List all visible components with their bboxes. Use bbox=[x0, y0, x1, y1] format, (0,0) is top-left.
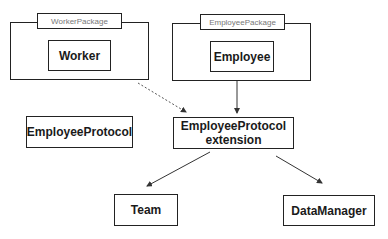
edges-layer bbox=[0, 0, 388, 239]
arrow-extension-to-datamanager bbox=[276, 156, 322, 183]
dashed-arrow-worker-to-extension bbox=[138, 83, 186, 112]
arrow-extension-to-team bbox=[147, 152, 210, 186]
